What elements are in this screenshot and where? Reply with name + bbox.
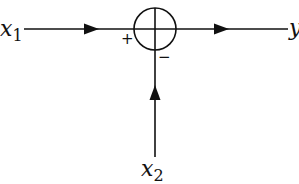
minus-sign: −: [158, 48, 171, 66]
arrow-right-icon: [214, 24, 229, 35]
arrow-right-icon: [84, 24, 99, 35]
input-x1-signal: [24, 24, 134, 35]
input-x2-label: x2: [141, 156, 164, 184]
arrow-up-icon: [150, 85, 161, 100]
input-x2-signal: [150, 50, 161, 157]
summing-junction: [134, 8, 176, 50]
output-y-label: y: [288, 15, 299, 40]
plus-sign: +: [121, 30, 134, 48]
block-diagram: x1 + y − x2: [0, 0, 299, 184]
input-x1-label: x1: [0, 16, 23, 45]
output-y-signal: [176, 24, 288, 35]
